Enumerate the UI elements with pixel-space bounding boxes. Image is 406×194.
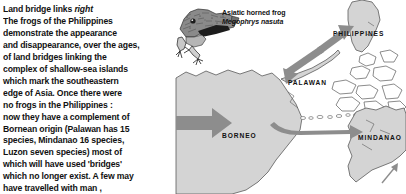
map-label-mindanao: MINDANAO xyxy=(358,133,402,142)
map-label-borneo: BORNEO xyxy=(222,131,257,140)
body-line: demonstrate the appearance xyxy=(3,28,166,40)
body-line: complex of shallow-sea islands xyxy=(3,64,166,76)
heading-cross-reference: right xyxy=(74,4,92,14)
body-line: which will have used 'bridges' xyxy=(3,159,166,171)
body-line: species, Mindanao 16 species, xyxy=(3,135,166,147)
caption-common-name: Asiatic horned frog xyxy=(222,8,285,17)
body-line: The frogs of the Philippines xyxy=(3,16,166,28)
body-line: no frogs in the Philippines : xyxy=(3,100,166,112)
article-heading: Land bridge links right xyxy=(3,4,166,16)
figure-panel: Land bridge links right The frogs of the… xyxy=(0,0,406,194)
article-text-column: Land bridge links right The frogs of the… xyxy=(3,4,175,194)
body-line: Bornean origin (Palawan has 15 xyxy=(3,124,166,136)
body-line: have travelled with man , xyxy=(3,183,166,194)
body-line: and disappearance, over the ages, xyxy=(3,40,166,52)
body-line: which no longer exist. A few may xyxy=(3,171,166,183)
body-line: which mark the southeastern xyxy=(3,76,166,88)
caption-scientific-name: Megophrys nasuta xyxy=(222,17,285,26)
body-line: edge of Asia. Once there were xyxy=(3,88,166,100)
body-line: of land bridges linking the xyxy=(3,52,166,64)
body-line: Luzon seven species) most of xyxy=(3,147,166,159)
map-label-palawan: PALAWAN xyxy=(288,78,327,87)
figure-caption: Asiatic horned frog Megophrys nasuta xyxy=(222,8,289,27)
body-line: now they have a complement of xyxy=(3,112,166,124)
heading-text: Land bridge links xyxy=(3,4,72,14)
map-label-philippines: PHILIPPINES xyxy=(333,29,384,38)
